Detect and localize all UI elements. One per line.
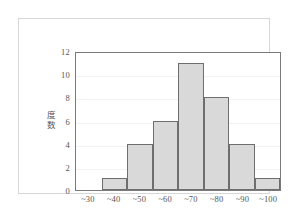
bar-slot (153, 53, 179, 190)
histogram-bar[interactable] (178, 63, 204, 190)
bar-slot (229, 53, 255, 190)
x-axis-tick-label: ~30 (75, 194, 101, 204)
histogram-bar[interactable] (153, 121, 179, 191)
y-axis-tick-label: 12 (61, 47, 70, 57)
bar-slot (178, 53, 204, 190)
x-axis-tick-label: ~50 (127, 194, 153, 204)
bar-series (76, 53, 280, 190)
x-axis-tick-label: ~100 (255, 194, 281, 204)
histogram-bar[interactable] (229, 144, 255, 190)
x-axis-tick-label: ~80 (204, 194, 230, 204)
y-axis-tick-label: 6 (66, 117, 70, 127)
bar-slot (76, 53, 102, 190)
y-axis-tick-label: 2 (66, 163, 70, 173)
y-axis-tick-label: 10 (61, 70, 70, 80)
bar-slot (255, 53, 281, 190)
histogram-figure: 度 数 024681012 ~30~40~50~60~70~80~90~100 (0, 0, 290, 214)
y-axis-tick-label: 8 (66, 93, 70, 103)
x-axis-tick-labels: ~30~40~50~60~70~80~90~100 (75, 194, 281, 204)
y-axis-tick-labels: 024681012 (19, 19, 75, 193)
histogram-bar[interactable] (102, 178, 128, 190)
y-axis-tick-label: 0 (66, 186, 70, 196)
figure-outer-frame: 度 数 024681012 ~30~40~50~60~70~80~90~100 (18, 18, 270, 194)
y-axis-tick-label: 4 (66, 140, 70, 150)
x-axis-tick-label: ~70 (178, 194, 204, 204)
histogram-bar[interactable] (204, 97, 230, 190)
bar-slot (204, 53, 230, 190)
x-axis-tick-label: ~60 (152, 194, 178, 204)
bar-slot (127, 53, 153, 190)
histogram-bar[interactable] (127, 144, 153, 190)
x-axis-tick-label: ~90 (230, 194, 256, 204)
bar-slot (102, 53, 128, 190)
histogram-bar[interactable] (255, 178, 281, 190)
x-axis-tick-label: ~40 (101, 194, 127, 204)
plot-area (75, 52, 281, 191)
